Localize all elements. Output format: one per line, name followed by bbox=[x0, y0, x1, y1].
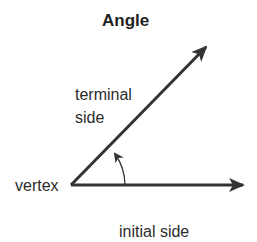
terminal-label-line1: terminal bbox=[75, 87, 132, 103]
angle-diagram bbox=[0, 0, 257, 242]
initial-side-label: initial side bbox=[119, 224, 189, 240]
vertex-label: vertex bbox=[15, 178, 59, 194]
angle-arc-icon bbox=[115, 154, 125, 185]
terminal-label-line2: side bbox=[75, 110, 104, 126]
